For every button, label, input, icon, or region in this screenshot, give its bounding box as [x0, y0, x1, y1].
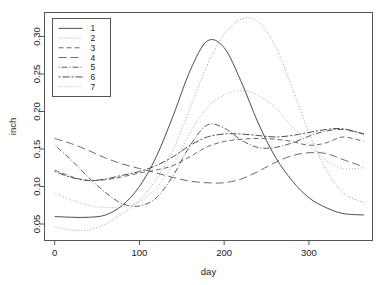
legend-label-5: 5	[91, 62, 96, 72]
x-axis-title: day	[201, 266, 217, 277]
legend-label-7: 7	[91, 82, 96, 92]
y-tick-label: 0.25	[31, 65, 42, 84]
series-line-3	[55, 137, 364, 181]
x-tick-label: 200	[216, 247, 232, 258]
legend-label-4: 4	[91, 53, 96, 63]
legend-label-2: 2	[91, 33, 96, 43]
legend-label-6: 6	[91, 72, 96, 82]
y-tick-label: 0.20	[31, 102, 42, 121]
x-tick-label: 0	[52, 247, 57, 258]
y-tick-label: 0.05	[31, 215, 42, 234]
legend-label-1: 1	[91, 23, 96, 33]
legend-layer: 1234567	[53, 19, 111, 97]
x-tick-label: 100	[131, 247, 147, 258]
y-tick-label: 0.15	[31, 140, 42, 159]
y-tick-label: 0.10	[31, 177, 42, 196]
chart-container: 01002003000.050.100.150.200.250.30dayinc…	[0, 0, 386, 285]
line-chart: 01002003000.050.100.150.200.250.30dayinc…	[0, 0, 386, 285]
y-axis-title: inch	[7, 118, 18, 135]
y-tick-label: 0.30	[31, 27, 42, 46]
legend-label-3: 3	[91, 43, 96, 53]
series-line-7	[55, 91, 364, 208]
x-tick-label: 300	[301, 247, 317, 258]
series-line-6	[55, 128, 364, 180]
